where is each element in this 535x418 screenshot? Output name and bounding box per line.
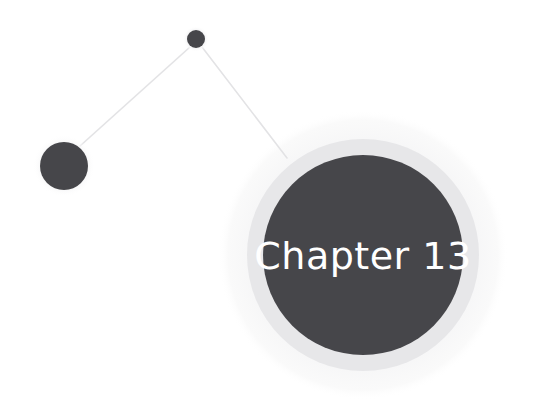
medium-node-disc	[40, 142, 88, 190]
chapter-divider-graphic: Chapter 13	[0, 0, 535, 418]
chapter-title: Chapter 13	[254, 234, 471, 278]
chapter-divider-canvas: Chapter 13	[0, 0, 535, 418]
small-node-disc	[187, 30, 205, 48]
